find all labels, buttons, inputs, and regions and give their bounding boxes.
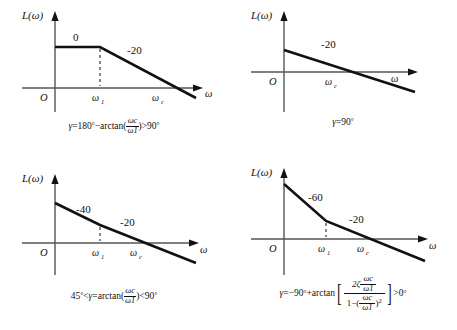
origin-label: O (269, 76, 277, 87)
y-axis-title: L(ω) (250, 166, 273, 179)
chart-panel-bottom-right: L(ω) ω O -60 -20 ω 1 ω c γ=−90°+arctan[2… (229, 163, 457, 328)
slope-label-minus-20: -20 (120, 216, 135, 228)
y-axis-title: L(ω) (21, 172, 44, 185)
x-tick-omega-1: ω 1 (318, 243, 330, 256)
caption-numerator-coefficient: 2ζ (352, 279, 360, 289)
caption-value: 90 (341, 117, 351, 127)
caption-big-fraction: 2ζωcω11−(ωcω1)2 (344, 275, 385, 312)
chart-panel-top-left: L(ω) ω O 0 -20 ω 1 ω c γ=180°−arctan(ωcω… (0, 0, 228, 165)
y-axis-title: L(ω) (250, 9, 273, 22)
chart-panel-top-right: L(ω) ω O -20 ω c γ=90° (229, 0, 457, 165)
x-tick-omega-1-subscript: 1 (101, 253, 104, 260)
x-tick-omega-c-subscript: c (334, 82, 337, 89)
caption-numerator-ratio-top: ωc (360, 275, 376, 284)
caption-lower-bound: 45 (71, 291, 81, 301)
caption-upper-bound-degree: ° (154, 292, 157, 300)
caption-top-left: γ=180°−arctan(ωcω1)>90° (0, 117, 228, 135)
caption-degree: ° (351, 118, 354, 126)
caption-function: arctan (312, 288, 335, 298)
slope-label-minus-40: -40 (76, 203, 91, 215)
plot-bottom-right: L(ω) ω O -60 -20 ω 1 ω c (229, 163, 457, 283)
caption-denominator-ratio: ωcω1 (359, 294, 375, 312)
slope-label-minus-20: -20 (349, 213, 364, 225)
caption-upper-bound: 90 (145, 291, 155, 301)
x-axis-arrow (408, 68, 418, 75)
x-tick-omega-c-subscript: c (161, 98, 164, 105)
x-axis-arrow (418, 235, 428, 242)
slope-label-minus-20: -20 (127, 44, 142, 56)
caption-denominator-power: 2 (378, 297, 381, 304)
x-axis-title: ω (205, 88, 212, 99)
y-axis-title: L(ω) (21, 9, 44, 22)
origin-label: O (40, 92, 48, 103)
x-tick-omega-1: ω 1 (92, 247, 104, 260)
magnitude-asymptote-curve (284, 50, 415, 92)
caption-bottom-right: γ=−90°+arctan[2ζωcω11−(ωcω1)2]>0° (229, 275, 457, 312)
x-axis-title: ω (429, 240, 436, 251)
slope-label-minus-60: -60 (308, 191, 323, 203)
x-tick-omega-c-glyph: ω (325, 76, 332, 87)
origin-label: O (269, 243, 277, 254)
x-tick-omega-1: ω 1 (92, 92, 104, 105)
slope-label-0: 0 (73, 31, 79, 43)
caption-fraction-denominator: ω1 (124, 296, 136, 306)
caption-value: 90 (294, 288, 304, 298)
caption-bound-degree: ° (157, 122, 160, 130)
caption-numerator-ratio: ωcω1 (360, 275, 376, 293)
x-tick-omega-c: ω c (325, 76, 337, 89)
x-tick-omega-1-glyph: ω (92, 92, 99, 103)
y-axis-arrow (51, 11, 58, 21)
x-axis-title: ω (200, 244, 207, 255)
caption-fraction-numerator: ωc (124, 287, 136, 296)
caption-value: 180 (77, 121, 91, 131)
x-tick-omega-1-glyph: ω (92, 247, 99, 258)
chart-panel-bottom-left: L(ω) ω O -40 -20 ω 1 ω c 45°<γ=arctan(ωc… (0, 163, 228, 328)
caption-fraction: ωcω1 (124, 287, 136, 305)
x-tick-omega-1-subscript: 1 (101, 98, 104, 105)
x-tick-omega-c-glyph: ω (130, 247, 137, 258)
caption-function: arctan( (100, 121, 126, 131)
figure-sheet: L(ω) ω O 0 -20 ω 1 ω c γ=180°−arctan(ωcω… (0, 0, 457, 330)
caption-denominator-ratio-top: ωc (359, 294, 375, 303)
x-tick-omega-c-subscript: c (139, 253, 142, 260)
caption-bracket-open: [ (337, 283, 342, 303)
plot-bottom-left: L(ω) ω O -40 -20 ω 1 ω c (0, 163, 228, 283)
caption-big-fraction-numerator: 2ζωcω1 (344, 275, 385, 293)
caption-fraction-numerator: ωc (126, 117, 138, 126)
x-axis-title: ω (391, 73, 398, 84)
caption-bottom-left: 45°<γ=arctan(ωcω1)<90° (0, 287, 228, 305)
y-axis-arrow (280, 11, 287, 21)
magnitude-asymptote-curve (55, 47, 196, 98)
caption-bracket-close: ] (387, 283, 392, 303)
slope-label-minus-20: -20 (321, 38, 336, 50)
caption-fraction: ωcω1 (126, 117, 138, 135)
caption-fraction-denominator: ω1 (126, 126, 138, 136)
caption-function: arctan( (98, 291, 124, 301)
caption-denominator-ratio-bottom: ω1 (359, 303, 375, 313)
caption-bound-degree: ° (403, 290, 406, 298)
x-axis-arrow (193, 84, 203, 91)
y-axis-arrow (51, 174, 58, 184)
x-axis-arrow (189, 239, 199, 246)
x-tick-omega-c-subscript: c (366, 249, 369, 256)
plot-top-right: L(ω) ω O -20 ω c (229, 0, 457, 120)
x-tick-omega-c: ω c (152, 92, 164, 105)
x-tick-omega-c: ω c (357, 243, 369, 256)
caption-top-right: γ=90° (229, 117, 457, 127)
caption-big-fraction-denominator: 1−(ωcω1)2 (344, 293, 385, 312)
plot-top-left: L(ω) ω O 0 -20 ω 1 ω c (0, 0, 228, 120)
x-tick-omega-c-glyph: ω (357, 243, 364, 254)
origin-label: O (40, 247, 48, 258)
x-tick-omega-c: ω c (130, 247, 142, 260)
x-tick-omega-c-glyph: ω (152, 92, 159, 103)
caption-numerator-ratio-bottom: ω1 (360, 284, 376, 294)
caption-bound: 90 (147, 121, 157, 131)
x-tick-omega-1-glyph: ω (318, 243, 325, 254)
y-axis-arrow (280, 168, 287, 178)
x-tick-omega-1-subscript: 1 (327, 249, 330, 256)
